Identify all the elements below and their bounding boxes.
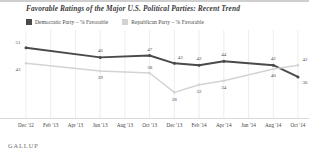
data-point-marker	[222, 60, 225, 63]
legend-item-republican: Republican Party – % Favorable	[122, 19, 204, 25]
x-axis-tick: Dec '12	[18, 122, 34, 128]
data-point-marker	[25, 62, 27, 64]
x-axis-tick: Jun '13	[93, 122, 108, 128]
chart-legend: Democratic Party – % Favorable Republica…	[26, 19, 204, 25]
data-point-marker	[297, 75, 300, 78]
data-point-label: 43	[16, 67, 21, 72]
x-axis-tick: Jun '14	[241, 122, 256, 128]
line-chart-svg	[0, 30, 309, 122]
legend-label-republican: Republican Party – % Favorable	[131, 19, 204, 25]
legend-item-democratic: Democratic Party – % Favorable	[26, 19, 108, 25]
data-point-label: 47	[147, 47, 152, 52]
x-axis-tick: Oct '14	[291, 122, 306, 128]
data-point-marker	[297, 64, 299, 66]
data-point-label: 42	[303, 57, 308, 62]
data-point-label: 34	[221, 85, 226, 90]
data-point-marker	[272, 64, 275, 67]
x-axis-tick: Apr '14	[216, 122, 232, 128]
data-point-label: 44	[221, 52, 226, 57]
data-point-marker	[198, 84, 200, 86]
x-axis-tick-labels: Dec '12Feb '13Apr '13Jun '13Aug '13Oct '…	[0, 120, 309, 134]
x-axis-tick: Feb '13	[43, 122, 58, 128]
x-axis-tick: Aug '14	[265, 122, 281, 128]
data-point-label: 39	[98, 75, 103, 80]
axis-baseline	[0, 118, 309, 119]
data-point-marker	[99, 56, 102, 59]
data-point-marker	[99, 70, 101, 72]
header-divider	[0, 0, 309, 2]
data-point-marker	[25, 46, 28, 49]
data-point-marker	[272, 68, 274, 70]
data-point-label: 38	[147, 65, 152, 70]
x-axis-tick: Apr '13	[68, 122, 84, 128]
data-point-label: 51	[16, 40, 21, 45]
data-point-label: 42	[197, 56, 202, 61]
legend-label-democratic: Democratic Party – % Favorable	[35, 19, 108, 25]
data-point-marker	[223, 80, 225, 82]
data-point-label: 43	[178, 55, 183, 60]
data-point-marker	[148, 54, 151, 57]
chart-plot-area: 51464743424442364339382832344042	[0, 30, 309, 122]
series-line-republican	[26, 63, 298, 92]
data-point-label: 28	[172, 97, 177, 102]
x-axis-tick: Dec '13	[166, 122, 182, 128]
data-point-label: 42	[271, 56, 276, 61]
data-point-label: 36	[303, 80, 308, 85]
data-point-label: 46	[98, 48, 103, 53]
legend-swatch-republican	[122, 19, 128, 25]
x-axis-tick: Oct '13	[142, 122, 157, 128]
x-axis-tick: Aug '13	[117, 122, 133, 128]
x-axis-tick: Feb '14	[191, 122, 206, 128]
data-point-label: 32	[197, 89, 202, 94]
data-point-marker	[198, 64, 201, 67]
legend-swatch-democratic	[26, 19, 32, 25]
data-point-marker	[173, 62, 176, 65]
gallup-logo: GALLUP	[8, 142, 39, 149]
gallup-chart-card: Favorable Ratings of the Major U.S. Poli…	[0, 0, 309, 161]
data-point-marker	[148, 72, 150, 74]
page-title: Favorable Ratings of the Major U.S. Poli…	[26, 4, 296, 13]
data-point-marker	[173, 91, 175, 93]
data-point-label: 40	[271, 73, 276, 78]
